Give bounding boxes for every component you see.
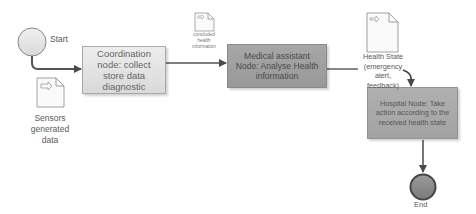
health-state-label: Health State (emergency alert, feedback) — [359, 52, 407, 90]
medical-node-label: Medical assistant Node: Analyse Health i… — [232, 51, 322, 81]
coordination-node-label: Coordination node: collect store data di… — [87, 48, 161, 92]
start-event[interactable] — [18, 28, 46, 56]
medical-assistant-node[interactable]: Medical assistant Node: Analyse Health i… — [227, 44, 327, 88]
health-state-document-icon[interactable] — [367, 13, 398, 52]
hospital-node-label: Hospital Node: Take action according to … — [373, 99, 452, 128]
concluded-document-icon[interactable] — [195, 13, 214, 31]
end-event[interactable] — [411, 175, 436, 200]
end-label: End — [414, 200, 427, 209]
flow-start-to-coordination — [32, 56, 81, 69]
sensors-document-icon[interactable] — [37, 78, 64, 107]
sensors-data-label: Sensors generated data — [24, 113, 76, 146]
coordination-node[interactable]: Coordination node: collect store data di… — [82, 46, 166, 94]
concluded-info-label: concluded health information — [188, 32, 220, 50]
start-label: Start — [50, 34, 68, 44]
hospital-node[interactable]: Hospital Node: Take action according to … — [367, 87, 458, 139]
